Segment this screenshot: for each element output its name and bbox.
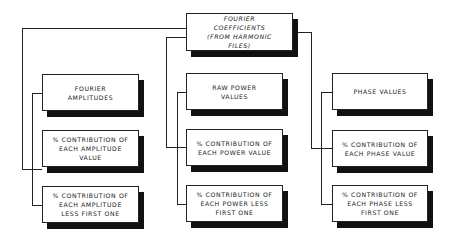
box-raw-power-values: RAW POWER VALUES: [186, 73, 283, 110]
box-fourier-amplitudes: FOURIER AMPLITUDES: [42, 74, 139, 111]
box-phase-contribution: % CONTRIBUTION OF EACH PHASE VALUE: [332, 130, 428, 167]
connector-col2-to-box3: [177, 204, 186, 205]
connector-col1-to-box1: [32, 93, 42, 94]
box-power-contribution: % CONTRIBUTION OF EACH POWER VALUE: [186, 129, 283, 166]
connector-col2-to-box1: [177, 92, 186, 93]
connector-col3-trunk: [311, 32, 312, 149]
connector-col3-bracket: [321, 92, 322, 205]
connector-col3-to-box3: [321, 204, 332, 205]
box-amplitude-contribution: % CONTRIBUTION OF EACH AMPLITUDE VALUE: [42, 130, 139, 167]
connector-col2-to-box2: [166, 147, 186, 148]
connector-col1-bracket: [32, 93, 33, 205]
connector-col1-trunk: [22, 28, 23, 170]
box-phase-contribution-less-first: % CONTRIBUTION OF EACH PHASE LESS FIRST …: [332, 185, 428, 222]
box-power-contribution-less-first: % CONTRIBUTION OF EACH POWER LESS FIRST …: [186, 185, 283, 222]
root-box-fourier-coefficients: FOURIER COEFFICIENTS (FROM HARMONIC FILE…: [186, 13, 293, 51]
connector-col1-to-box3: [32, 205, 42, 206]
connector-col3-to-box1: [321, 92, 332, 93]
connector-root-col2-top: [166, 37, 186, 38]
connector-col2-trunk: [166, 37, 167, 148]
connector-root-col1-top: [22, 28, 186, 29]
connector-col2-bracket: [177, 92, 178, 205]
connector-root-col3-top: [293, 32, 311, 33]
box-phase-values: PHASE VALUES: [332, 73, 428, 110]
box-amplitude-contribution-less-first: % CONTRIBUTION OF EACH AMPLITUDE LESS FI…: [42, 186, 139, 223]
